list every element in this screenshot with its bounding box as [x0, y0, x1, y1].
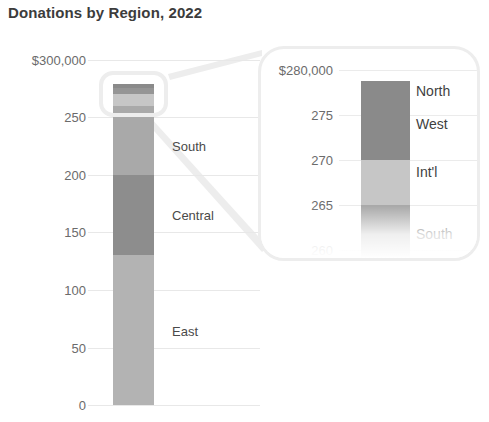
y-axis-labels: $300,000 250 200 150 100 50 0: [0, 0, 86, 422]
y-tick-label: 250: [0, 110, 86, 125]
gridline: [88, 405, 260, 406]
callout-label-intl: Int'l: [416, 164, 437, 180]
callout-y-tick-label: 260: [261, 243, 333, 258]
callout-label-south: South: [416, 226, 453, 242]
callout-segment-north-west[interactable]: [361, 81, 410, 160]
y-tick-label: 200: [0, 168, 86, 183]
callout-plot: $280,000 275 270 265 260 North West Int'…: [261, 49, 477, 258]
segment-label-east: East: [172, 324, 198, 339]
y-tick-label: $300,000: [0, 53, 86, 68]
main-chart-plot: $300,000 250 200 150 100 50 0 South Cent…: [0, 0, 260, 422]
y-tick-label: 100: [0, 283, 86, 298]
stacked-bar[interactable]: [113, 84, 154, 405]
callout-y-tick-label: 265: [261, 198, 333, 213]
y-tick-label: 0: [0, 398, 86, 413]
chart-canvas: Donations by Region, 2022 $300,000 250 2…: [0, 0, 489, 422]
bar-segment-east[interactable]: [113, 255, 154, 405]
bar-segment-intl[interactable]: [113, 94, 154, 106]
callout-y-tick-label: 270: [261, 153, 333, 168]
segment-label-south: South: [172, 139, 206, 154]
callout-stacked-bar[interactable]: [361, 81, 410, 258]
bar-segment-south[interactable]: [113, 106, 154, 175]
callout-gridline: [339, 70, 477, 71]
gridline: [88, 60, 260, 61]
callout-y-tick-label: $280,000: [261, 63, 333, 78]
callout-segment-south[interactable]: [361, 205, 410, 258]
y-tick-label: 50: [0, 341, 86, 356]
segment-label-central: Central: [172, 208, 214, 223]
y-tick-label: 150: [0, 225, 86, 240]
callout-y-tick-label: 275: [261, 108, 333, 123]
magnified-callout-panel[interactable]: $280,000 275 270 265 260 North West Int'…: [258, 46, 480, 261]
callout-segment-intl[interactable]: [361, 160, 410, 205]
bar-segment-central[interactable]: [113, 175, 154, 255]
callout-label-west: West: [416, 116, 448, 132]
callout-label-north: North: [416, 83, 450, 99]
